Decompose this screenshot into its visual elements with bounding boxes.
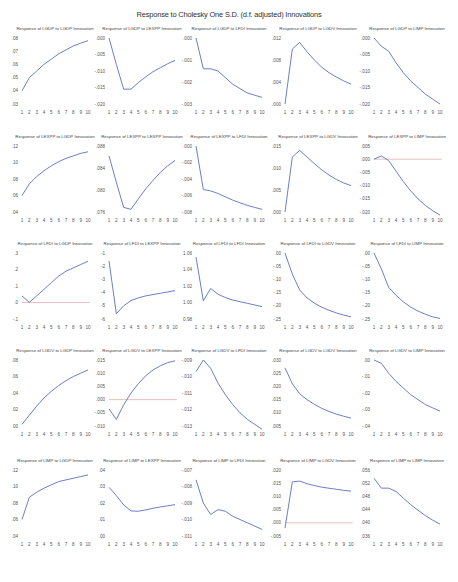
x-tick-label: 4 [306,542,309,547]
y-tick-label: .076 [96,210,105,215]
y-tick-label: -.01 [362,374,370,379]
y-tick-label: 1.02 [183,284,192,289]
irf-panel: Response of LEXPP to LEXPP Innovation.08… [87,130,177,240]
x-tick-label: 4 [306,110,309,115]
x-tick-label: 7 [152,218,155,223]
x-tick-label: 2 [28,218,31,223]
y-tick-label: .005 [272,424,281,429]
y-tick-label: .04 [99,468,106,473]
x-tick-label: 6 [144,110,147,115]
x-tick-label: 5 [402,325,405,330]
y-tick-label: -.001 [182,58,193,63]
y-tick-label: -.03 [362,407,370,412]
x-tick-label: 10 [437,110,443,115]
y-tick-label: .015 [96,358,105,363]
y-tick-label: -3 [101,277,106,282]
x-tick-label: 3 [387,432,390,437]
x-tick-label: 7 [328,218,331,223]
y-tick-label: .040 [361,520,370,525]
irf-chart: Response of LGDV to LIMP Innovation.00-.… [352,344,444,452]
y-tick-label: .005 [96,384,105,389]
panel-title: Response of LGDP to LFDI Innovation [192,26,267,31]
y-tick-label: -.25 [362,317,370,322]
response-line [196,146,262,209]
panel-title: Response of LGDP to LGDV Innovation [279,26,357,31]
y-tick-label: -.20 [362,303,370,308]
x-tick-label: 1 [108,432,111,437]
irf-panel: Response of LGDP to LGDP Innovation.03.0… [0,22,90,132]
y-tick-label: .000 [272,520,281,525]
panel-title: Response of LFDI to LGDP Innovation [18,241,93,246]
y-tick-label: .08 [12,358,19,363]
x-tick-label: 1 [21,218,24,223]
y-tick-label: .088 [96,144,105,149]
x-tick-label: 10 [437,325,443,330]
x-tick-label: 4 [130,542,133,547]
x-tick-label: 7 [65,542,68,547]
irf-chart: Response of LEXPP to LFDI Innovation.000… [174,130,266,238]
x-tick-label: 2 [202,218,205,223]
x-tick-label: 2 [202,325,205,330]
x-tick-label: 8 [424,325,427,330]
x-tick-label: 1 [284,110,287,115]
y-tick-label: .052 [361,481,370,486]
irf-chart: Response of LGDP to LGDV Innovation.012.… [263,22,355,130]
x-tick-label: 4 [306,432,309,437]
irf-chart: Response of LGDP to LFDI Innovation.000-… [174,22,266,130]
response-line [374,253,440,318]
x-tick-label: 10 [437,542,443,547]
x-tick-label: 1 [195,542,198,547]
x-tick-label: 3 [387,110,390,115]
x-tick-label: 5 [313,218,316,223]
y-tick-label: .03 [12,102,19,107]
irf-panel: Response of LIMP to LFDI Innovation-.007… [174,454,264,564]
irf-chart: Response of LEXPP to LIMP Innovation.005… [352,130,444,238]
x-tick-label: 1 [373,325,376,330]
x-tick-label: 8 [246,218,249,223]
x-tick-label: 6 [409,542,412,547]
x-tick-label: 5 [50,325,53,330]
x-tick-label: 4 [130,110,133,115]
y-tick-label: -.10 [273,277,281,282]
x-tick-label: 2 [291,325,294,330]
x-tick-label: 2 [380,218,383,223]
irf-panel: Response of LEXPP to LIMP Innovation.005… [352,130,442,240]
x-tick-label: 7 [417,110,420,115]
y-tick-label: .06 [12,517,19,522]
y-tick-label: .1 [14,284,18,289]
x-tick-label: 7 [239,110,242,115]
y-tick-label: -.15 [362,290,370,295]
x-tick-label: 6 [144,542,147,547]
irf-chart: Response of LIMP to LEXPP Innovation.04.… [87,454,179,562]
y-tick-label: -4 [101,290,106,295]
x-tick-label: 4 [130,432,133,437]
y-tick-label: -5 [101,303,106,308]
y-tick-label: .12 [12,144,19,149]
y-tick-label: .00 [275,251,282,256]
irf-panel: Response of LFDI to LFDI Innovation1.061… [174,237,264,347]
x-tick-label: 1 [108,325,111,330]
panel-title: Response of LGDV to LEXPP Innovation [102,348,182,353]
x-tick-label: 1 [108,110,111,115]
x-tick-label: 2 [380,110,383,115]
x-tick-label: 6 [409,325,412,330]
irf-chart: Response of LFDI to LGDV Innovation.00-.… [263,237,355,345]
x-tick-label: 7 [239,325,242,330]
y-tick-label: .0 [14,300,18,305]
x-tick-label: 7 [239,542,242,547]
irf-panel: Response of LIMP to LIMP Innovation.056.… [352,454,442,564]
y-tick-label: .056 [361,468,370,473]
y-tick-label: -.05 [273,264,281,269]
y-tick-label: .06 [12,62,19,67]
irf-chart: Response of LIMP to LGDP Innovation.12.1… [0,454,92,562]
y-tick-label: .004 [272,80,281,85]
y-tick-label: -1 [101,251,106,256]
x-tick-label: 4 [130,325,133,330]
y-tick-label: -.011 [182,534,193,539]
x-tick-label: 3 [122,542,125,547]
x-tick-label: 9 [166,325,169,330]
x-tick-label: 9 [79,325,82,330]
x-tick-label: 3 [35,110,38,115]
x-tick-label: 6 [409,432,412,437]
x-tick-label: 9 [79,542,82,547]
